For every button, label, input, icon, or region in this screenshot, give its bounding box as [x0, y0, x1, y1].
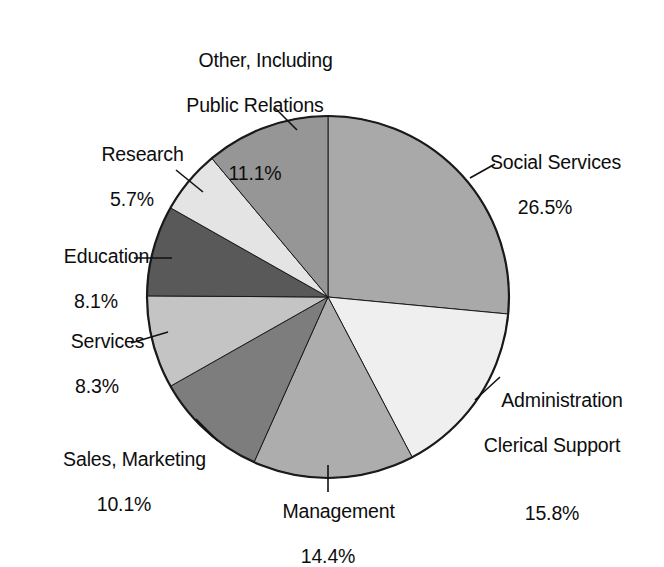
pie-label-sales-marketing: Sales, Marketing 10.1% [24, 425, 224, 561]
pie-label-other-line2: Public Relations [148, 94, 362, 117]
pie-label-administration-clerical-support: Administration Clerical Support 15.8% [448, 366, 656, 567]
pie-value-social: 26.5% [450, 196, 640, 219]
pie-value-management: 14.4% [238, 545, 418, 567]
pie-label-social-services: Social Services 26.5% [450, 128, 640, 264]
pie-label-admin-line1: Administration [501, 389, 622, 411]
pie-label-research-line1: Research [101, 143, 183, 165]
pie-value-research: 5.7% [58, 188, 206, 211]
pie-value-admin: 15.8% [448, 502, 656, 525]
pie-label-sales-line1: Sales, Marketing [63, 448, 206, 470]
pie-label-services-line1: Services [71, 330, 145, 352]
pie-value-sales: 10.1% [24, 493, 224, 516]
pie-label-social-line1: Social Services [490, 151, 621, 173]
pie-label-other-line1: Other, Including [198, 49, 332, 71]
pie-label-admin-line2: Clerical Support [448, 434, 656, 457]
pie-label-management: Management 14.4% [238, 477, 418, 567]
pie-value-services: 8.3% [22, 375, 172, 398]
pie-label-management-line1: Management [282, 500, 394, 522]
pie-label-services: Services 8.3% [22, 307, 172, 443]
pie-label-education-line1: Education [64, 245, 149, 267]
